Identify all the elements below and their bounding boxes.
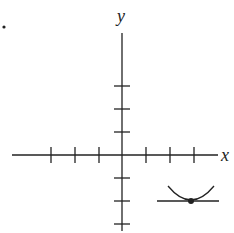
- x-axis-label: x: [220, 145, 229, 165]
- coordinate-diagram: y x: [0, 0, 234, 233]
- bullet-marker: [2, 25, 5, 28]
- tangent-point: [188, 198, 194, 204]
- curve-local-minimum: [168, 186, 214, 200]
- y-axis-label: y: [115, 6, 125, 26]
